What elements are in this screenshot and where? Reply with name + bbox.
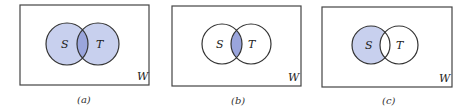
set-s-label: S [365, 39, 373, 52]
panel-caption: (a) [77, 94, 91, 105]
universe-label: W [137, 70, 150, 83]
universe-label: W [288, 71, 301, 84]
set-s-label: S [216, 38, 224, 51]
panel-caption: (b) [231, 95, 245, 106]
panel-c-difference: S T W (c) [322, 7, 452, 106]
panel-a-union: S T W (a) [20, 5, 150, 105]
set-s-label: S [61, 38, 69, 51]
panel-b-intersection: S T W (b) [172, 6, 301, 106]
panel-caption: (c) [382, 95, 396, 106]
universe-label: W [439, 72, 452, 85]
venn-diagram-figure: S T W (a) S T W (b) S T W (c) [0, 0, 476, 112]
